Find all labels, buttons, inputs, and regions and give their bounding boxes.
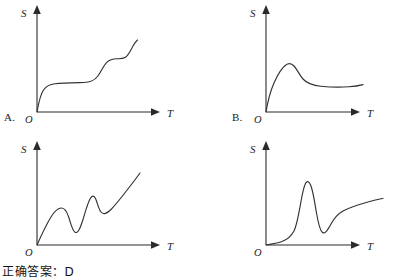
option-c-panel[interactable]: S T O C.: [0, 133, 190, 260]
option-a-y-axis-arrow: [33, 5, 41, 14]
option-c-x-axis-label: T: [167, 240, 174, 252]
option-b-origin-label: O: [254, 114, 262, 125]
option-c-curve: [37, 173, 140, 245]
option-d-x-axis-arrow: [351, 241, 360, 248]
option-b-y-axis-arrow: [262, 5, 270, 14]
option-a-letter: A.: [4, 111, 15, 123]
option-c-y-axis-arrow: [33, 141, 41, 150]
option-b-panel[interactable]: S T O B.: [197, 0, 397, 135]
option-d-curve: [266, 182, 383, 245]
option-d-panel[interactable]: S T O D.: [197, 133, 397, 260]
option-c-origin-label: O: [25, 247, 33, 258]
option-b-x-axis-label: T: [367, 107, 374, 119]
option-b-y-axis-label: S: [250, 7, 256, 19]
option-a-x-axis-label: T: [167, 107, 174, 119]
option-d-y-axis-arrow: [262, 141, 270, 150]
option-b-x-axis-arrow: [351, 108, 360, 115]
correct-answer-text: 正确答案：D: [2, 262, 74, 279]
option-a-chart: S T O: [0, 0, 190, 135]
option-d-origin-label: O: [254, 247, 262, 258]
multiple-choice-figure: S T O A. S T O B.: [0, 0, 397, 280]
option-d-x-axis-label: T: [367, 240, 374, 252]
option-c-x-axis-arrow: [151, 241, 160, 248]
option-b-letter: B.: [232, 111, 243, 123]
option-b-curve: [266, 64, 363, 112]
option-a-y-axis-label: S: [21, 7, 27, 19]
option-c-chart: S T O: [0, 133, 190, 260]
option-d-y-axis-label: S: [250, 143, 256, 155]
option-a-curve: [37, 40, 138, 112]
option-a-origin-label: O: [25, 114, 33, 125]
option-b-chart: S T O: [197, 0, 397, 135]
option-c-y-axis-label: S: [21, 143, 27, 155]
option-d-chart: S T O: [197, 133, 397, 260]
option-a-panel[interactable]: S T O A.: [0, 0, 190, 135]
option-a-x-axis-arrow: [151, 108, 160, 115]
